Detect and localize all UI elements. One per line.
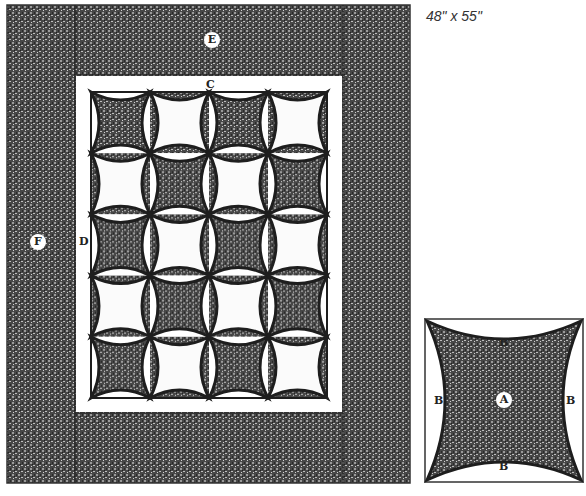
label-b-top: B	[499, 336, 508, 349]
label-d: D	[79, 235, 89, 248]
size-label: 48" x 55"	[426, 8, 482, 24]
label-b-left: B	[434, 394, 443, 407]
label-f: F	[30, 234, 46, 250]
quilt-svg	[0, 0, 586, 496]
label-a: A	[496, 392, 512, 408]
label-b-bottom: B	[499, 460, 508, 473]
label-e: E	[204, 32, 220, 48]
block-grid	[91, 92, 327, 398]
label-c: C	[206, 78, 215, 91]
label-b-right: B	[566, 394, 575, 407]
quilt-diagram: 48" x 55" E F D C A B B B B	[0, 0, 586, 496]
